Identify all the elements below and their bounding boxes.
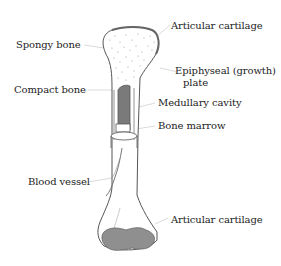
- label-epiphyseal-plate-line2: plate: [183, 77, 208, 88]
- label-compact-bone: Compact bone: [14, 84, 86, 95]
- label-blood-vessel: Blood vessel: [28, 176, 90, 187]
- articular-cartilage-distal: [102, 228, 155, 251]
- label-medullary-cavity: Medullary cavity: [158, 97, 241, 108]
- label-spongy-bone: Spongy bone: [16, 39, 81, 50]
- label-bone-marrow: Bone marrow: [158, 120, 225, 131]
- bone-diagram: Articular cartilage Spongy bone Epiphyse…: [0, 0, 281, 266]
- label-articular-cartilage-top: Articular cartilage: [171, 20, 263, 31]
- label-epiphyseal-plate-line1: Epiphyseal (growth): [175, 65, 276, 76]
- label-articular-cartilage-bottom: Articular cartilage: [171, 214, 263, 225]
